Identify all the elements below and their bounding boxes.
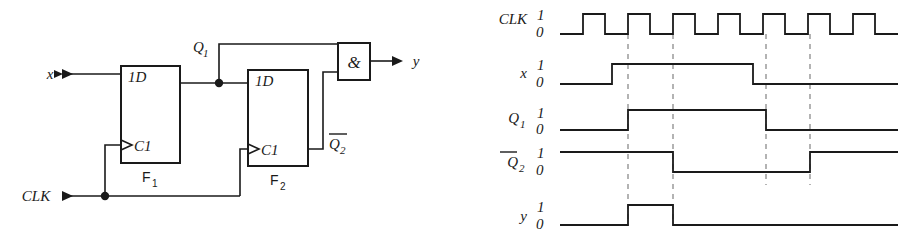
flipflop-f1-name: F: [142, 169, 151, 185]
y-row-label: y: [518, 208, 527, 224]
q2bar-row-label-subscript: 2: [519, 162, 525, 174]
y-row-level-high: 1: [537, 199, 545, 215]
clk-waveform: [560, 14, 898, 34]
flipflop-f2-data-pin-label: 1D: [255, 73, 274, 89]
y-output-label: y: [411, 53, 420, 69]
flipflop-f1-clock-pin-label: C1: [134, 138, 152, 154]
timing-diagram: CLK 1 0 x 1 0 Q 1 1 0: [499, 7, 898, 232]
q1-waveform: [560, 110, 898, 130]
x-input-label: x: [46, 66, 54, 82]
flipflop-f2-name: F: [270, 172, 279, 188]
q2bar-net-label: Q: [329, 136, 340, 152]
q1-row-label-subscript: 1: [520, 118, 526, 130]
q2bar-row-level-high: 1: [537, 145, 545, 161]
x-waveform: [560, 64, 898, 84]
q1-row-level-low: 0: [536, 121, 544, 137]
timing-row-y: y 1 0: [518, 199, 898, 232]
timing-row-q1: Q 1 1 0: [508, 105, 898, 137]
timing-row-q2bar: Q 2 1 0: [500, 145, 898, 178]
figure-root: x CLK 1D C1 F 1 Q 1: [0, 0, 911, 235]
x-row-level-high: 1: [537, 57, 545, 73]
clk-to-f2-wire: [240, 149, 248, 196]
circuit-diagram: x CLK 1D C1 F 1 Q 1: [22, 39, 420, 204]
q1-row-label: Q: [508, 110, 519, 126]
q1-row-level-high: 1: [537, 105, 545, 121]
q1-net-label-subscript: 1: [203, 47, 209, 59]
clk-input-label: CLK: [22, 188, 51, 204]
q2bar-net-label-subscript: 2: [340, 144, 346, 156]
x-row-level-low: 0: [536, 74, 544, 90]
y-output-arrowhead: [392, 56, 403, 66]
flipflop-f2-clock-pin-label: C1: [261, 142, 279, 158]
clk-row-label: CLK: [499, 11, 528, 27]
q2bar-waveform: [560, 152, 898, 172]
y-waveform: [560, 205, 898, 225]
flipflop-f2-name-subscript: 2: [280, 181, 286, 192]
flipflop-f1-name-subscript: 1: [152, 178, 158, 189]
x-input-arrowhead: [62, 69, 73, 79]
timing-row-x: x 1 0: [519, 57, 898, 90]
figure-svg: x CLK 1D C1 F 1 Q 1: [0, 0, 911, 235]
flipflop-f1-data-pin-label: 1D: [128, 69, 147, 85]
x-row-label: x: [519, 65, 527, 81]
q2bar-row-level-low: 0: [536, 162, 544, 178]
q2bar-row-label: Q: [507, 154, 518, 170]
clk-row-level-high: 1: [537, 7, 545, 23]
clk-row-level-low: 0: [536, 24, 544, 40]
timing-row-clk: CLK 1 0: [499, 7, 898, 40]
y-row-level-low: 0: [536, 216, 544, 232]
clk-to-f1-wire: [105, 145, 121, 196]
and-gate-symbol: &: [347, 53, 361, 72]
